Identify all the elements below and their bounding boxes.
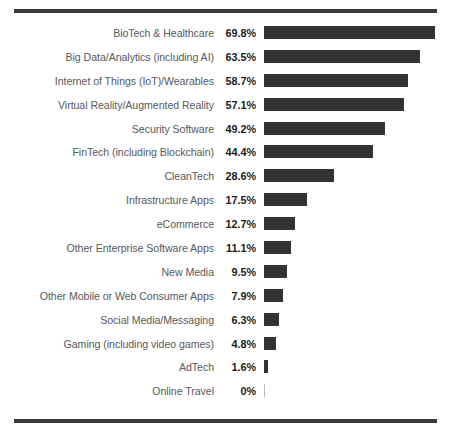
value-label: 44.4% bbox=[193, 146, 256, 159]
value-label: 49.2% bbox=[193, 123, 256, 136]
value-label: 4.8% bbox=[193, 338, 256, 351]
bar bbox=[264, 217, 295, 230]
chart-row: CleanTech28.6% bbox=[0, 167, 449, 191]
chart-row: BioTech & Healthcare69.8% bbox=[0, 24, 449, 48]
chart-row: Security Software49.2% bbox=[0, 120, 449, 144]
chart-row: AdTech1.6% bbox=[0, 358, 449, 382]
bar bbox=[264, 50, 420, 63]
bar-track bbox=[264, 337, 444, 350]
category-label: CleanTech bbox=[14, 170, 214, 183]
bar bbox=[264, 193, 307, 206]
value-label: 58.7% bbox=[193, 75, 256, 88]
bottom-rule-divider bbox=[14, 419, 437, 423]
bar bbox=[264, 337, 276, 350]
category-label: Internet of Things (IoT)/Wearables bbox=[14, 75, 214, 88]
bar-track bbox=[264, 241, 444, 254]
chart-row: New Media9.5% bbox=[0, 263, 449, 287]
value-label: 11.1% bbox=[193, 242, 256, 255]
category-label: eCommerce bbox=[14, 218, 214, 231]
bar bbox=[264, 74, 408, 87]
category-label: Other Mobile or Web Consumer Apps bbox=[14, 290, 214, 303]
category-label: FinTech (including Blockchain) bbox=[14, 146, 214, 159]
chart-row: Other Mobile or Web Consumer Apps7.9% bbox=[0, 287, 449, 311]
category-label: Security Software bbox=[14, 123, 214, 136]
bar-track bbox=[264, 217, 444, 230]
value-label: 7.9% bbox=[193, 290, 256, 303]
bar bbox=[264, 145, 373, 158]
bar-track bbox=[264, 265, 444, 278]
value-label: 63.5% bbox=[193, 51, 256, 64]
value-label: 0% bbox=[193, 385, 256, 398]
category-label: New Media bbox=[14, 266, 214, 279]
bar-track bbox=[264, 26, 444, 39]
category-label: Gaming (including video games) bbox=[14, 338, 214, 351]
bar bbox=[264, 384, 265, 397]
category-label: Big Data/Analytics (including AI) bbox=[14, 51, 214, 64]
chart-row: Big Data/Analytics (including AI)63.5% bbox=[0, 48, 449, 72]
top-rule-divider bbox=[14, 9, 437, 13]
bar bbox=[264, 98, 404, 111]
category-label: Other Enterprise Software Apps bbox=[14, 242, 214, 255]
chart-row: Internet of Things (IoT)/Wearables58.7% bbox=[0, 72, 449, 96]
bar bbox=[264, 122, 385, 135]
bar-track bbox=[264, 98, 444, 111]
value-label: 17.5% bbox=[193, 194, 256, 207]
chart-row: Infrastructure Apps17.5% bbox=[0, 191, 449, 215]
chart-row: eCommerce12.7% bbox=[0, 215, 449, 239]
value-label: 6.3% bbox=[193, 314, 256, 327]
bar bbox=[264, 360, 268, 373]
bar bbox=[264, 265, 287, 278]
value-label: 1.6% bbox=[193, 361, 256, 374]
bar-track bbox=[264, 169, 444, 182]
bar bbox=[264, 289, 283, 302]
category-label: Infrastructure Apps bbox=[14, 194, 214, 207]
bar bbox=[264, 313, 279, 326]
bar-track bbox=[264, 289, 444, 302]
bar-track bbox=[264, 122, 444, 135]
value-label: 57.1% bbox=[193, 99, 256, 112]
chart-row: FinTech (including Blockchain)44.4% bbox=[0, 143, 449, 167]
category-label: Social Media/Messaging bbox=[14, 314, 214, 327]
chart-row: Virtual Reality/Augmented Reality57.1% bbox=[0, 96, 449, 120]
chart-row: Online Travel0% bbox=[0, 382, 449, 406]
category-label: AdTech bbox=[14, 361, 214, 374]
category-label: Virtual Reality/Augmented Reality bbox=[14, 99, 214, 112]
bar-track bbox=[264, 50, 444, 63]
value-label: 69.8% bbox=[193, 27, 256, 40]
chart-row: Social Media/Messaging6.3% bbox=[0, 311, 449, 335]
horizontal-bar-chart: BioTech & Healthcare69.8%Big Data/Analyt… bbox=[0, 0, 449, 435]
value-label: 9.5% bbox=[193, 266, 256, 279]
bar-track bbox=[264, 313, 444, 326]
bar-track bbox=[264, 193, 444, 206]
bar bbox=[264, 241, 291, 254]
chart-row: Other Enterprise Software Apps11.1% bbox=[0, 239, 449, 263]
value-label: 12.7% bbox=[193, 218, 256, 231]
category-label: Online Travel bbox=[14, 385, 214, 398]
bar-track bbox=[264, 145, 444, 158]
category-label: BioTech & Healthcare bbox=[14, 27, 214, 40]
chart-rows-container: BioTech & Healthcare69.8%Big Data/Analyt… bbox=[0, 24, 449, 406]
bar-track bbox=[264, 74, 444, 87]
chart-row: Gaming (including video games)4.8% bbox=[0, 335, 449, 359]
bar bbox=[264, 26, 435, 39]
bar-track bbox=[264, 360, 444, 373]
bar-track bbox=[264, 384, 444, 397]
bar bbox=[264, 169, 334, 182]
value-label: 28.6% bbox=[193, 170, 256, 183]
